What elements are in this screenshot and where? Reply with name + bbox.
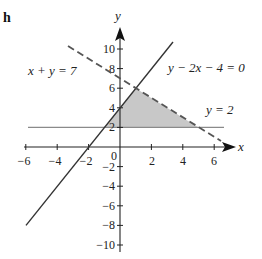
y-axis-label: y: [113, 8, 121, 23]
label-x-plus-y-equals-7: x + y = 7: [27, 63, 77, 78]
x-axis-label: x: [237, 139, 244, 154]
y-tick-label: 2: [109, 120, 115, 134]
y-tick-label: −4: [102, 179, 115, 193]
origin-label: 0: [111, 149, 117, 163]
x-tick-label: 6: [211, 154, 217, 168]
y-tick-label: −6: [102, 199, 115, 213]
x-tick-label: −6: [18, 154, 31, 168]
x-tick-label: 4: [180, 154, 186, 168]
part-label: h: [3, 10, 11, 25]
y-tick-label: 8: [109, 62, 115, 76]
y-tick-label: 10: [103, 42, 115, 56]
x-tick-label: −4: [49, 154, 62, 168]
linear-inequalities-graph: h −6 −4 −2 2 4 6 10 8: [0, 0, 262, 259]
x-tick-label: 2: [149, 154, 155, 168]
label-y-minus-2x-minus-4: y − 2x − 4 = 0: [166, 60, 245, 75]
label-y-equals-2: y = 2: [204, 102, 234, 117]
y-tick-label: −8: [102, 218, 115, 232]
y-tick-label: 6: [109, 81, 115, 95]
y-tick-label: −10: [96, 238, 115, 252]
y-tick-label: 4: [109, 101, 115, 115]
